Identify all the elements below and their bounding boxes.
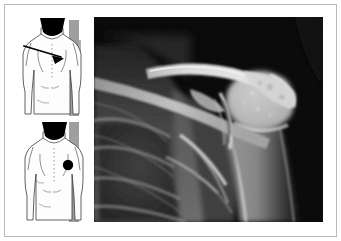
- body-diagram-lower: [11, 120, 93, 226]
- shoulder-radiograph: [94, 17, 323, 222]
- body-diagram-column: [11, 14, 93, 226]
- film-grain: [94, 17, 323, 222]
- body-diagram-upper: [11, 14, 93, 120]
- site-marker-dot: [63, 160, 73, 170]
- figure-root: [0, 0, 341, 241]
